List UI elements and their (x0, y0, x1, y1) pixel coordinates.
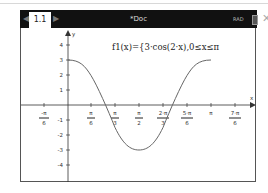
y-tick-label: 2 (60, 72, 64, 78)
function-label[interactable]: f1(x)={3·cos(2·x),0≤x≤π (112, 42, 220, 52)
x-ticks: -π 6 π 6 π 3 π 2 2·π 3 5·π 6 π 7·π 6 (39, 103, 241, 126)
y-axis-label: y (72, 31, 76, 38)
x-tick-label: π (209, 110, 213, 116)
x-tick-denominator: 6 (185, 120, 189, 126)
x-tick-denominator: 2 (137, 120, 141, 126)
y-axis-arrow-icon (65, 30, 71, 36)
y-tick-label: -2 (58, 132, 63, 138)
y-tick-label: 3 (60, 57, 64, 63)
x-tick-numerator: 2·π (159, 110, 168, 116)
graph-canvas[interactable]: x y 4 3 2 1 -1 -2 -3 -4 -π 6 π 6 (0, 0, 268, 193)
x-axis-arrow-icon (250, 102, 256, 108)
x-tick-denominator: 6 (89, 120, 93, 126)
x-tick-denominator: 6 (42, 120, 46, 126)
y-tick-label: -1 (58, 117, 63, 123)
y-tick-label: -4 (58, 162, 64, 168)
x-axis-label: x (250, 95, 254, 101)
y-tick-label: 1 (60, 87, 64, 93)
y-tick-label: -3 (58, 147, 64, 153)
x-tick-numerator: -π (41, 110, 47, 116)
y-tick-label: 4 (60, 42, 64, 48)
x-tick-numerator: π (137, 110, 141, 116)
x-tick-numerator: 7·π (231, 110, 240, 116)
x-tick-denominator: 6 (233, 120, 237, 126)
x-tick-numerator: π (89, 110, 93, 116)
x-tick-numerator: 5·π (183, 110, 192, 116)
x-tick-numerator: π (113, 110, 117, 116)
